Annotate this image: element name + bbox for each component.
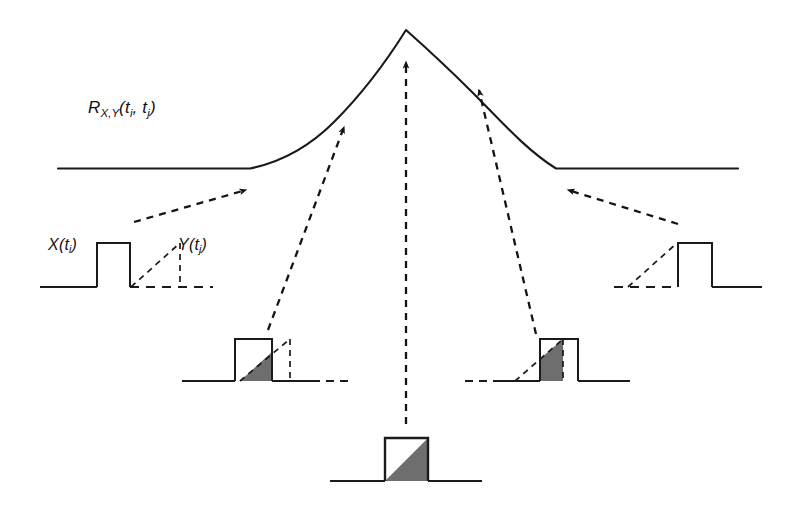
label-signal-x: X(ti) — [48, 237, 77, 255]
arrow-to-fall-mid — [479, 90, 536, 334]
label-correlation: RX,Y(ti, tj) — [88, 99, 156, 119]
arrow-to-rise-mid — [268, 127, 344, 330]
correlation-curve-group — [58, 30, 738, 169]
inset-large-overlap-right — [465, 339, 630, 381]
figure-root: RX,Y(ti, tj) X(ti) Y(tj) — [0, 0, 796, 514]
pulse-outline — [97, 243, 130, 287]
label-signal-y-base: Y — [178, 236, 189, 253]
label-signal-y-paren-close: ) — [201, 236, 207, 253]
inset-small-overlap-left — [182, 339, 348, 381]
label-correlation-comma: , — [133, 98, 143, 117]
figure-caption — [0, 503, 796, 514]
ramp-slope — [131, 243, 180, 287]
correlation-curve — [58, 30, 738, 169]
overlap-shade — [540, 339, 563, 381]
cross-correlation-figure — [0, 0, 796, 514]
pointer-arrows-group — [134, 62, 678, 424]
arrow-to-rise-foot — [134, 190, 246, 222]
label-correlation-subscript: X,Y — [100, 107, 119, 119]
inset-maximum-overlap — [330, 438, 482, 481]
label-signal-y: Y(tj) — [178, 237, 207, 255]
label-signal-x-base: X — [48, 236, 59, 253]
overlap-shade — [385, 438, 428, 481]
ramp-slope — [628, 243, 677, 287]
pulse-outline — [678, 243, 712, 287]
overlap-shade — [240, 352, 272, 381]
label-correlation-paren-close: ) — [150, 98, 156, 117]
inset-no-overlap-right — [614, 243, 762, 287]
label-correlation-base: R — [88, 98, 100, 117]
arrow-to-fall-foot — [568, 190, 678, 224]
label-signal-x-paren-close: ) — [71, 236, 77, 253]
